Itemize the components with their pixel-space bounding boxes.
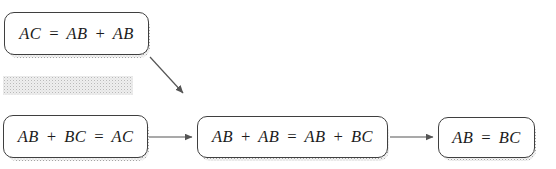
node-equation-4: AB = BC (438, 117, 535, 158)
equation-text-3: AB + AB = AB + BC (212, 127, 373, 147)
equation-flowchart: AC = AB + AB AB + BC = AC AB + AB = AB +… (0, 0, 556, 169)
node-equation-1: AC = AB + AB (4, 12, 149, 55)
redacted-reason-bar (3, 76, 133, 95)
node-equation-3: AB + AB = AB + BC (197, 116, 388, 158)
equation-text-2: AB + BC = AC (18, 127, 134, 147)
arrow-given-to-substitution (150, 57, 183, 93)
equation-text-1: AC = AB + AB (19, 24, 133, 44)
node-equation-2: AB + BC = AC (3, 115, 148, 158)
equation-text-4: AB = BC (452, 128, 520, 148)
